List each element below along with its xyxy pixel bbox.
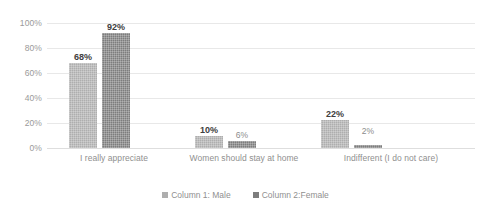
legend-item-female[interactable]: Column 2:Female	[253, 190, 329, 200]
bar-group-1: 68% 92%	[55, 23, 181, 148]
category-label-1: I really appreciate	[47, 152, 181, 164]
legend-label-male: Column 1: Male	[171, 190, 231, 200]
legend-swatch-icon	[162, 192, 168, 198]
legend: Column 1: Male Column 2:Female	[0, 190, 491, 200]
legend-swatch-icon	[253, 192, 259, 198]
category-label-3: Indifferent (I do not care)	[307, 152, 475, 164]
y-tick-label: 0%	[0, 143, 42, 153]
bar-group-3: 22% 2%	[307, 23, 433, 148]
plot-area: 68% 92% 10% 6% 22%	[47, 23, 475, 148]
bar-female-3	[354, 145, 382, 148]
bar-value-female-3: 2%	[348, 126, 388, 136]
legend-label-female: Column 2:Female	[262, 190, 329, 200]
y-tick-label: 20%	[0, 118, 42, 128]
bar-value-female-2: 6%	[222, 130, 262, 140]
bar-group-2: 10% 6%	[181, 23, 307, 148]
y-axis: 100% 80% 60% 40% 20% 0%	[0, 0, 42, 211]
y-tick-label: 80%	[0, 43, 42, 53]
bar-value-female-1: 92%	[96, 22, 136, 32]
gridline-0	[47, 148, 475, 149]
y-tick-label: 40%	[0, 93, 42, 103]
bar-chart: 100% 80% 60% 40% 20% 0% 68% 92%	[0, 0, 491, 211]
bar-slot-female-3: 2%	[307, 23, 433, 148]
y-tick-label: 100%	[0, 18, 42, 28]
legend-item-male[interactable]: Column 1: Male	[162, 190, 231, 200]
category-label-2: Women should stay at home	[181, 152, 307, 164]
bar-slot-female-2: 6%	[181, 23, 307, 148]
x-axis-labels: I really appreciate Women should stay at…	[47, 152, 475, 186]
y-tick-label: 60%	[0, 68, 42, 78]
bar-slot-female-1: 92%	[55, 23, 181, 148]
bar-female-1	[102, 33, 130, 148]
bar-female-2	[228, 141, 256, 148]
